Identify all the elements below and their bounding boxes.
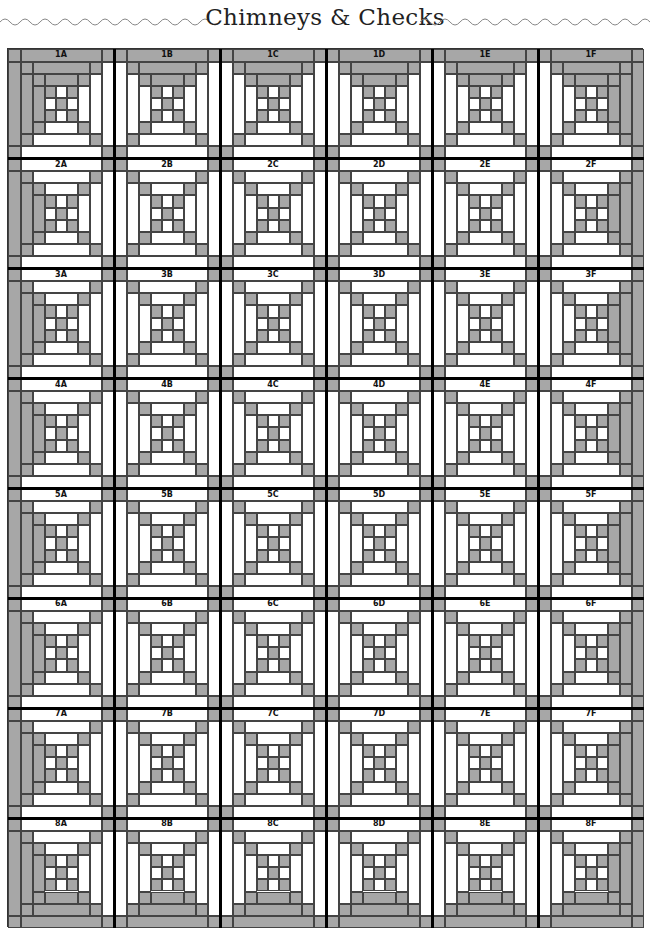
quilt-block: 2E bbox=[432, 159, 538, 269]
corner-square bbox=[620, 904, 632, 916]
corner-square bbox=[339, 501, 351, 513]
bottom-strip bbox=[363, 562, 396, 574]
corner-square bbox=[551, 684, 563, 696]
bottom-strip bbox=[257, 452, 290, 464]
left-strip bbox=[127, 183, 139, 244]
block-label: 4D bbox=[339, 379, 420, 392]
left-strip bbox=[339, 843, 351, 904]
quilt-block: 6E bbox=[432, 598, 538, 708]
corner-square bbox=[608, 623, 620, 635]
nine-patch-square bbox=[374, 745, 385, 757]
nine-patch-square bbox=[173, 537, 184, 549]
left-strip bbox=[538, 281, 551, 366]
nine-patch-square bbox=[491, 98, 502, 110]
quilt-block: 1E bbox=[432, 49, 538, 159]
right-strip bbox=[184, 635, 196, 672]
nine-patch-square bbox=[45, 305, 56, 317]
nine-patch-square bbox=[469, 855, 480, 867]
top-strip bbox=[33, 721, 90, 733]
corner-square bbox=[114, 708, 127, 721]
left-strip bbox=[233, 403, 245, 464]
corner-square bbox=[78, 232, 90, 244]
corner-square bbox=[90, 134, 102, 146]
top-strip bbox=[457, 721, 514, 733]
right-strip bbox=[78, 195, 90, 232]
left-strip bbox=[8, 171, 21, 256]
nine-patch-square bbox=[268, 305, 279, 317]
nine-patch-square bbox=[151, 318, 162, 330]
bottom-strip bbox=[151, 452, 184, 464]
nine-patch-square bbox=[56, 220, 67, 232]
corner-square bbox=[432, 916, 445, 929]
corner-square bbox=[33, 623, 45, 635]
nine-patch-square bbox=[469, 745, 480, 757]
corner-square bbox=[502, 342, 514, 354]
corner-square bbox=[408, 794, 420, 806]
right-strip bbox=[620, 843, 632, 904]
bottom-strip bbox=[575, 232, 608, 244]
nine-patch-square bbox=[469, 318, 480, 330]
block-label: 8C bbox=[233, 818, 314, 831]
nine-patch-square bbox=[385, 745, 396, 757]
block-label: 5D bbox=[339, 489, 420, 502]
top-strip bbox=[563, 281, 620, 293]
nine-patch-square bbox=[597, 525, 608, 537]
nine-patch-square bbox=[385, 757, 396, 769]
nine-patch-square bbox=[480, 550, 491, 562]
corner-square bbox=[184, 843, 196, 855]
nine-patch-square bbox=[491, 415, 502, 427]
right-strip bbox=[620, 623, 632, 684]
nine-patch-square bbox=[491, 647, 502, 659]
corner-square bbox=[245, 232, 257, 244]
nine-patch-square bbox=[374, 769, 385, 781]
left-strip bbox=[457, 635, 469, 672]
block-label: 5F bbox=[551, 489, 632, 502]
bottom-strip bbox=[33, 244, 90, 256]
corner-square bbox=[220, 598, 233, 611]
bottom-strip bbox=[469, 892, 502, 904]
left-strip bbox=[326, 391, 339, 476]
corner-square bbox=[127, 611, 139, 623]
right-strip bbox=[78, 635, 90, 672]
corner-square bbox=[139, 672, 151, 684]
quilt-block: 8F bbox=[538, 818, 644, 928]
left-strip bbox=[127, 843, 139, 904]
corner-square bbox=[502, 232, 514, 244]
corner-square bbox=[351, 843, 363, 855]
right-strip bbox=[196, 513, 208, 574]
right-strip bbox=[514, 623, 526, 684]
nine-patch-square bbox=[374, 195, 385, 207]
nine-patch-square bbox=[173, 757, 184, 769]
nine-patch-square bbox=[45, 427, 56, 439]
nine-patch-square bbox=[480, 427, 491, 439]
corner-square bbox=[514, 721, 526, 733]
nine-patch-square bbox=[268, 769, 279, 781]
corner-square bbox=[351, 733, 363, 745]
nine-patch-square bbox=[385, 330, 396, 342]
bottom-strip bbox=[257, 232, 290, 244]
corner-square bbox=[78, 183, 90, 195]
nine-patch-square bbox=[45, 208, 56, 220]
nine-patch-square bbox=[469, 757, 480, 769]
bottom-strip bbox=[151, 782, 184, 794]
bottom-strip bbox=[151, 562, 184, 574]
nine-patch-square bbox=[67, 879, 78, 891]
corner-square bbox=[233, 171, 245, 183]
left-strip bbox=[538, 391, 551, 476]
left-strip bbox=[245, 195, 257, 232]
left-strip bbox=[326, 62, 339, 147]
bottom-strip bbox=[351, 464, 408, 476]
corner-square bbox=[127, 574, 139, 586]
nine-patch-square bbox=[279, 305, 290, 317]
nine-patch-square bbox=[162, 745, 173, 757]
nine-patch-square bbox=[363, 98, 374, 110]
top-strip bbox=[257, 623, 290, 635]
bottom-strip bbox=[469, 782, 502, 794]
corner-square bbox=[78, 892, 90, 904]
top-strip bbox=[245, 281, 302, 293]
top-strip bbox=[151, 293, 184, 305]
bottom-strip bbox=[33, 684, 90, 696]
corner-square bbox=[620, 171, 632, 183]
nine-patch-square bbox=[597, 757, 608, 769]
nine-patch-square bbox=[279, 855, 290, 867]
